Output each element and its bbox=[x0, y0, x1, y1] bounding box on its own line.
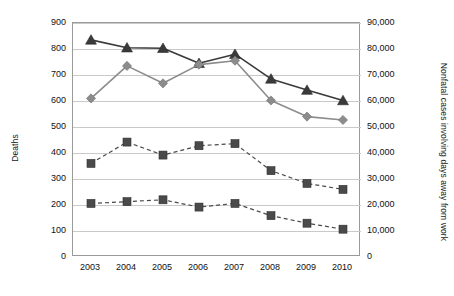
plot-svg bbox=[73, 23, 361, 257]
data-point-marker bbox=[158, 79, 167, 88]
data-point-marker bbox=[159, 151, 167, 159]
y-axis-left-tick-label: 300 bbox=[51, 173, 66, 183]
x-axis-tick-label: 2005 bbox=[145, 262, 179, 273]
data-point-marker bbox=[231, 199, 239, 207]
data-point-marker bbox=[123, 198, 131, 206]
y-axis-right-title: Nonfatal cases involving days away from … bbox=[436, 4, 452, 296]
x-axis-tick-label: 2007 bbox=[217, 262, 251, 273]
y-axis-right-tick-label: 70,000 bbox=[367, 69, 395, 79]
series-1 bbox=[86, 35, 349, 105]
y-axis-left-tick-label: 200 bbox=[51, 199, 66, 209]
data-point-marker bbox=[267, 167, 275, 175]
y-axis-left-tick-label: 600 bbox=[51, 95, 66, 105]
y-axis-right-tick-label: 90,000 bbox=[367, 17, 395, 27]
data-point-marker bbox=[86, 35, 97, 44]
data-point-marker bbox=[302, 112, 311, 121]
x-axis-tick-label: 2004 bbox=[109, 262, 143, 273]
x-axis-tick-label: 2009 bbox=[289, 262, 323, 273]
data-point-marker bbox=[87, 199, 95, 207]
x-axis-tick-label: 2010 bbox=[325, 262, 359, 273]
y-axis-right-tick-label: 0 bbox=[367, 251, 372, 261]
y-axis-right-tick-label: 60,000 bbox=[367, 95, 395, 105]
data-point-marker bbox=[87, 159, 95, 167]
chart-container: Deaths Nonfatal cases involving days awa… bbox=[0, 0, 454, 296]
y-axis-left-tick-label: 500 bbox=[51, 121, 66, 131]
data-point-marker bbox=[231, 140, 239, 148]
data-point-marker bbox=[303, 219, 311, 227]
y-axis-left-tick-label: 800 bbox=[51, 43, 66, 53]
data-point-marker bbox=[339, 225, 347, 233]
data-point-marker bbox=[123, 138, 131, 146]
series-3 bbox=[87, 138, 347, 193]
data-point-marker bbox=[267, 212, 275, 220]
series-4 bbox=[87, 196, 347, 233]
plot-area bbox=[72, 22, 360, 256]
data-point-marker bbox=[195, 142, 203, 150]
y-axis-right-tick-label: 30,000 bbox=[367, 173, 395, 183]
data-point-marker bbox=[339, 185, 347, 193]
y-axis-right-tick-label: 40,000 bbox=[367, 147, 395, 157]
y-axis-left-tick-label: 400 bbox=[51, 147, 66, 157]
y-axis-left-tick-label: 700 bbox=[51, 69, 66, 79]
y-axis-left-tick-label: 900 bbox=[51, 17, 66, 27]
x-axis-tick-label: 2006 bbox=[181, 262, 215, 273]
y-axis-right-tick-label: 20,000 bbox=[367, 199, 395, 209]
data-point-marker bbox=[303, 179, 311, 187]
y-axis-right-tick-label: 80,000 bbox=[367, 43, 395, 53]
y-axis-left-title: Deaths bbox=[6, 0, 24, 296]
data-point-marker bbox=[159, 196, 167, 204]
gridlines bbox=[73, 23, 361, 231]
y-axis-right-tick-label: 50,000 bbox=[367, 121, 395, 131]
x-axis-tick-label: 2008 bbox=[253, 262, 287, 273]
x-axis-tick-label: 2003 bbox=[73, 262, 107, 273]
y-axis-left-tick-label: 100 bbox=[51, 225, 66, 235]
y-axis-left-tick-label: 0 bbox=[61, 251, 66, 261]
y-axis-right-tick-label: 10,000 bbox=[367, 225, 395, 235]
data-point-marker bbox=[195, 203, 203, 211]
data-point-marker bbox=[338, 115, 347, 124]
